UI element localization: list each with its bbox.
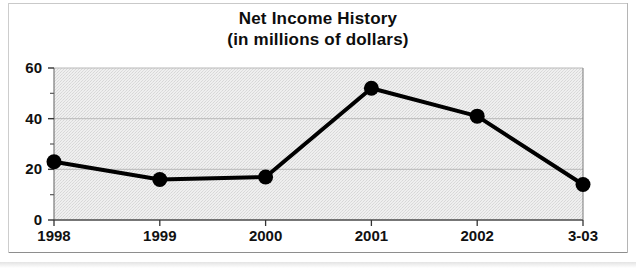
chart-figure: Net Income History (in millions of dolla…	[0, 0, 636, 272]
y-axis-tick-label: 0	[2, 212, 42, 227]
plot-background	[54, 68, 583, 220]
x-axis-tick-label: 2001	[336, 228, 406, 244]
line-chart-svg	[0, 0, 636, 272]
plot-area: 0204060 199819992000200120023-03	[0, 0, 636, 272]
x-axis-tick-label: 1998	[19, 228, 89, 244]
y-axis-tick-label: 40	[2, 111, 42, 126]
x-axis-tick-label: 1999	[125, 228, 195, 244]
x-axis-tick-label: 2002	[442, 228, 512, 244]
y-axis-tick-label: 60	[2, 60, 42, 75]
x-axis-tick-label: 3-03	[548, 228, 618, 244]
x-axis-tick-label: 2000	[231, 228, 301, 244]
y-axis-tick-label: 20	[2, 161, 42, 176]
